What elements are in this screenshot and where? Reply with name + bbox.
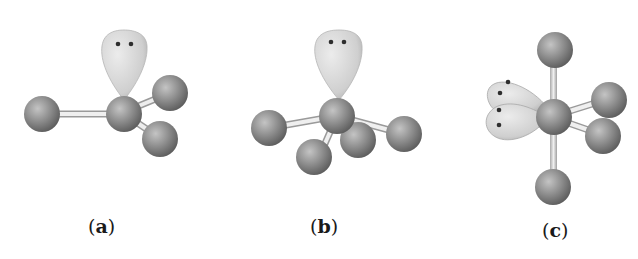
ligand-atom <box>585 118 621 154</box>
lone-pair-lobe <box>102 30 147 100</box>
ligand-atom <box>296 139 332 175</box>
ligand-atom <box>152 75 188 111</box>
panel-c-label: (c) <box>542 219 568 241</box>
electron-dot <box>329 40 334 45</box>
ligand-atom <box>591 82 627 118</box>
lone-pair-lobe <box>315 30 362 100</box>
panel-a-label: (a) <box>88 215 115 237</box>
panel-c-letter: c <box>549 219 561 241</box>
electron-dot <box>498 91 503 96</box>
electron-dot <box>129 42 134 47</box>
ligand-atom <box>251 110 287 146</box>
electron-dot <box>116 42 121 47</box>
central-atom <box>536 99 572 135</box>
panel-a-letter: a <box>95 215 107 237</box>
electron-dot <box>506 80 511 85</box>
ligand-atom <box>537 32 573 68</box>
ligand-atom <box>142 121 178 157</box>
electron-dot <box>497 108 502 113</box>
panel-b-label: (b) <box>310 215 338 237</box>
electron-dot <box>342 40 347 45</box>
panel-b-molecule <box>251 30 422 175</box>
central-atom <box>106 96 142 132</box>
central-atom <box>319 98 355 134</box>
ligand-atom <box>535 169 571 205</box>
ligand-atom <box>24 96 60 132</box>
panel-b-letter: b <box>317 215 330 237</box>
panel-c-molecule <box>486 32 627 205</box>
ligand-atom <box>386 116 422 152</box>
panel-a-molecule <box>24 30 188 157</box>
electron-dot <box>497 123 502 128</box>
